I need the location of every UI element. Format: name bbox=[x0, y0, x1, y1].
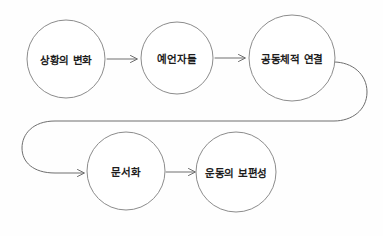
node-prophets-label: 예언자들 bbox=[157, 53, 196, 65]
node-documentation-label: 문서화 bbox=[111, 166, 141, 178]
node-community-connection[interactable]: 공동체적 연결 bbox=[249, 15, 335, 101]
node-movement-universality[interactable]: 운동의 보편성 bbox=[196, 132, 276, 212]
flowchart-canvas: 상황의 변화 예언자들 공동체적 연결 문서화 운동의 보편성 bbox=[0, 0, 383, 236]
node-situation-change-label: 상황의 변화 bbox=[40, 54, 93, 66]
flowchart-diagram: 상황의 변화 예언자들 공동체적 연결 문서화 운동의 보편성 bbox=[0, 0, 383, 236]
node-prophets[interactable]: 예언자들 bbox=[141, 22, 213, 94]
connector-prophets-to-community bbox=[215, 55, 246, 62]
connector-situation-to-prophets bbox=[107, 56, 138, 63]
node-documentation[interactable]: 문서화 bbox=[87, 132, 165, 210]
connector-documentation-to-universality bbox=[166, 169, 196, 176]
node-situation-change[interactable]: 상황의 변화 bbox=[27, 20, 105, 98]
node-movement-universality-label: 운동의 보편성 bbox=[205, 167, 267, 179]
node-community-connection-label: 공동체적 연결 bbox=[261, 53, 323, 65]
